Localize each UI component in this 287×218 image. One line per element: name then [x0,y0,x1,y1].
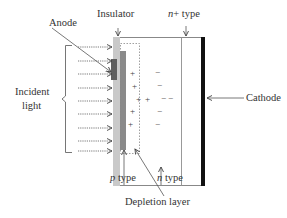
plus-sign: + [145,94,150,104]
minus-sign: − [155,119,160,129]
plus-sign: + [132,81,137,91]
n-type-suffix: type [162,172,183,183]
anode-leader [52,28,111,72]
charges: + + + + + + − − − − − − [128,67,173,129]
plus-sign: + [130,106,135,116]
n-type-label: n type [157,172,183,184]
p-type-suffix: type [115,172,136,183]
anode-label: Anode [49,17,77,29]
minus-sign: − [157,80,162,90]
plus-sign: + [128,119,133,129]
n-plus-suffix: + type [173,8,200,19]
minus-sign: − [157,106,162,116]
plus-sign: + [136,94,141,104]
incident-label-2: light [22,100,41,112]
insulator-label: Insulator [97,8,134,20]
p-type-label: p type [110,172,136,184]
incident-light-arrows [78,47,112,151]
light-bracket [62,46,72,153]
incident-label-1: Incident [15,86,49,98]
photodiode-diagram: + + + + + + − − − − − − [0,0,287,218]
minus-sign: − [168,93,173,103]
minus-sign: − [161,93,166,103]
plus-sign: + [130,68,135,78]
n-plus-type-label: n+ type [168,8,200,20]
depletion-layer-label: Depletion layer [125,196,190,208]
anode-contact [111,59,117,80]
cathode-contact [201,37,205,186]
minus-sign: − [155,67,160,77]
cathode-label: Cathode [246,92,281,104]
